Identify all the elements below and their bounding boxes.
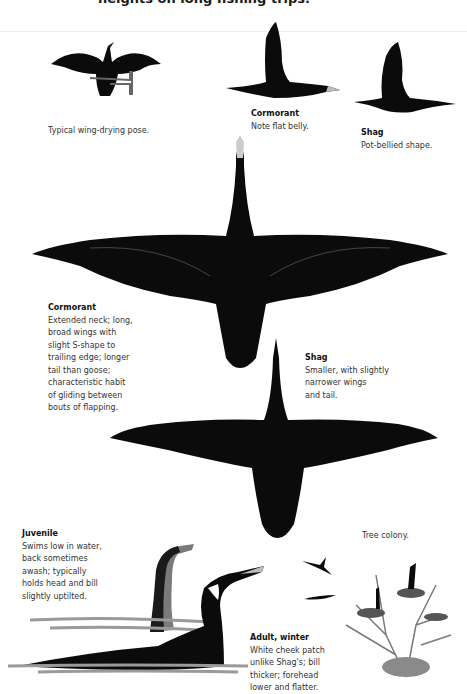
- adult-winter-swimming-illustration: [8, 566, 268, 676]
- shag-side-flight-illustration: [352, 40, 458, 112]
- wing-drying-illustration: [48, 38, 163, 100]
- caption-adult-winter: Adult, winter White cheek patch unlike S…: [250, 632, 325, 694]
- caption-tree-colony: Tree colony.: [362, 530, 409, 543]
- tree-colony-illustration: [336, 555, 456, 680]
- page-heading: heights on long fishing trips.: [98, 0, 310, 6]
- caption-cormorant-side: Cormorant Note flat belly.: [251, 108, 309, 133]
- field-guide-page: heights on long fishing trips. Typical w…: [0, 0, 467, 694]
- cormorant-side-flight-illustration: [224, 20, 342, 100]
- caption-shag-overhead: Shag Smaller, with slightly narrower win…: [305, 352, 389, 402]
